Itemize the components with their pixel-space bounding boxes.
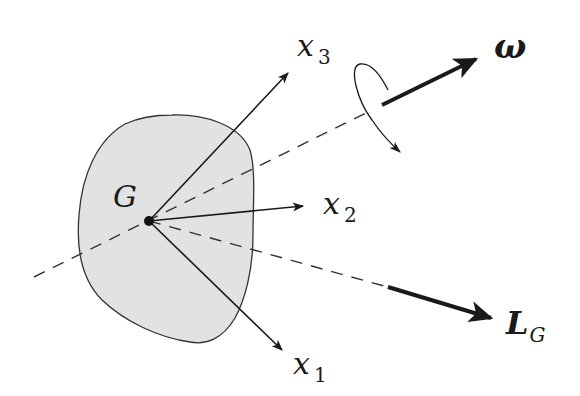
x2-label-sub: 2 xyxy=(344,203,357,227)
rotation-curl-icon xyxy=(354,64,400,152)
omega-label: ω xyxy=(494,26,526,66)
x3-label-base: x xyxy=(297,28,314,63)
x1-label: x1 xyxy=(293,346,327,387)
x3-label: x3 xyxy=(297,28,331,69)
angular-momentum-label-sub: G xyxy=(530,323,546,347)
rigid-body-shape xyxy=(78,115,253,343)
center-of-mass-label: G xyxy=(113,179,137,214)
angular-momentum-arrow xyxy=(388,287,491,318)
x2-label-base: x xyxy=(323,186,340,221)
x1-label-sub: 1 xyxy=(314,363,327,387)
x3-label-sub: 3 xyxy=(318,45,331,69)
omega-arrow xyxy=(382,59,476,105)
diagram-canvas: G x3 x2 x1 ω LG xyxy=(0,0,580,396)
x2-label: x2 xyxy=(323,186,357,227)
angular-momentum-label-base: L xyxy=(505,304,529,342)
rigid-body-diagram: G x3 x2 x1 ω LG xyxy=(0,0,580,396)
angular-momentum-label: LG xyxy=(505,304,546,347)
x1-label-base: x xyxy=(293,346,310,381)
center-of-mass-dot xyxy=(144,216,154,226)
